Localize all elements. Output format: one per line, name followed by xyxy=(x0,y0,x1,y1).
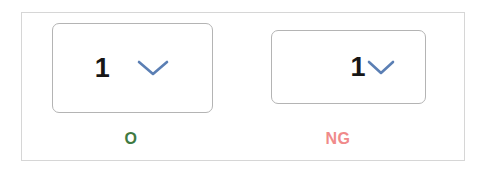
dropdown-ng-value: 1 xyxy=(350,54,366,81)
comparison-frame: 1 O 1 NG xyxy=(21,12,465,161)
status-label-ok: O xyxy=(31,131,231,147)
chevron-down-icon[interactable] xyxy=(136,58,170,78)
dropdown-ng[interactable]: 1 xyxy=(271,30,426,104)
screenshot-root: 1 O 1 NG xyxy=(0,0,484,173)
dropdown-ok-value: 1 xyxy=(95,55,111,82)
chevron-down-icon[interactable] xyxy=(366,58,396,77)
status-label-ng: NG xyxy=(238,131,438,147)
dropdown-ok[interactable]: 1 xyxy=(52,23,213,113)
